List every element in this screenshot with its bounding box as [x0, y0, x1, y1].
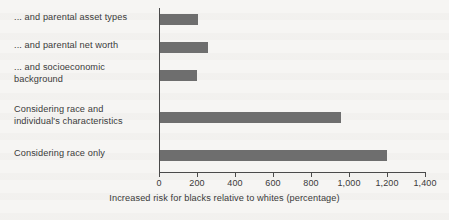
y-axis-line: [159, 8, 160, 172]
x-axis-tick-label: 800: [291, 178, 331, 188]
x-axis-tick-label: 600: [253, 178, 293, 188]
category-label-line: individual's characteristics: [14, 116, 123, 126]
category-label-line: background: [14, 74, 63, 84]
x-axis-tick: [425, 172, 426, 177]
bar-socioeconomic-background: [160, 70, 197, 81]
category-label-line: ... and parental asset types: [14, 12, 127, 22]
category-label-line: Considering race only: [14, 148, 105, 158]
x-axis-tick: [235, 172, 236, 177]
category-label-race-only: Considering race only: [14, 148, 152, 160]
x-axis-tick: [311, 172, 312, 177]
category-label-parental-net-worth: ... and parental net worth: [14, 40, 152, 52]
bar-race-only: [160, 150, 387, 161]
x-axis-tick-label: 200: [177, 178, 217, 188]
x-axis-tick: [159, 172, 160, 177]
x-axis-title: Increased risk for blacks relative to wh…: [0, 193, 449, 203]
x-axis-tick-label: 1,400: [405, 178, 445, 188]
category-label-race-and-individual-characteristics: Considering race and individual's charac…: [14, 104, 152, 127]
x-axis-tick: [349, 172, 350, 177]
category-label-line: ... and parental net worth: [14, 40, 118, 50]
x-axis-line: [159, 172, 426, 173]
bar-parental-net-worth: [160, 42, 208, 53]
x-axis-tick-label: 0: [139, 178, 179, 188]
x-axis-tick-label: 1,200: [367, 178, 407, 188]
category-label-line: Considering race and: [14, 104, 103, 114]
bar-race-and-individual-characteristics: [160, 112, 341, 123]
category-label-parental-asset-types: ... and parental asset types: [14, 12, 152, 24]
horizontal-bar-chart: ... and parental asset types ... and par…: [0, 0, 449, 220]
x-axis-tick: [273, 172, 274, 177]
bar-parental-asset-types: [160, 14, 198, 25]
x-axis-tick: [197, 172, 198, 177]
x-axis-tick-label: 1,000: [329, 178, 369, 188]
category-label-line: ... and socioeconomic: [14, 62, 105, 72]
category-label-socioeconomic-background: ... and socioeconomic background: [14, 62, 152, 85]
x-axis-tick-label: 400: [215, 178, 255, 188]
plot-area: [159, 8, 425, 172]
x-axis-tick: [387, 172, 388, 177]
